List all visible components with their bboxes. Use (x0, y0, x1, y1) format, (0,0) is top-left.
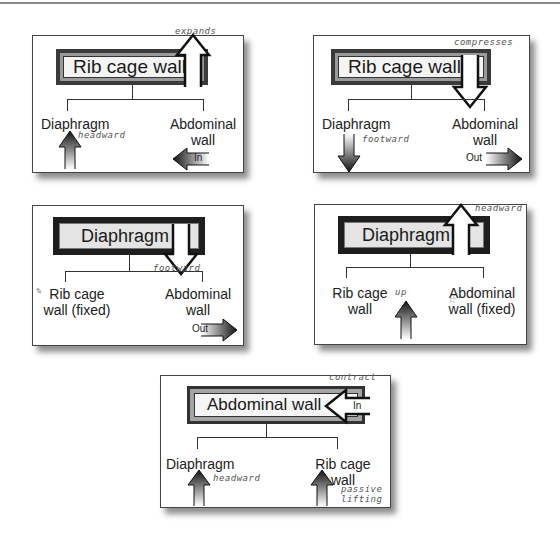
handwritten-note-headward: headward (213, 473, 260, 483)
label-rib-cage-wall: Rib cage wall (323, 285, 397, 317)
tree-bar (67, 99, 204, 100)
tree-branch-right (337, 437, 338, 449)
arrow-label-out: Out (192, 323, 208, 334)
handwritten-note-passive-lifting: passive lifting (341, 484, 382, 504)
panel-diaphragm-footward: Diaphragm footward ✎ Rib cage wall (fixe… (32, 205, 244, 346)
tree-branch-right (484, 99, 485, 111)
tree-stem (266, 424, 267, 437)
tree-branch-right (202, 271, 203, 282)
hollow-up-arrow-icon (175, 33, 211, 88)
header-label: Diaphragm (81, 226, 169, 247)
panel-rib-cage-compresses: Rib cage wall compresses Diaphragm Abdom… (313, 35, 530, 173)
panel-abdominal-wall-contract: Abdominal wall In contract Diaphragm hea… (160, 375, 391, 508)
gradient-down-arrow-icon (338, 134, 360, 172)
label-abdominal-wall: Abdominal wall (167, 116, 239, 148)
handwritten-note-headward: headward (78, 130, 125, 140)
label-abdominal-wall-fixed: Abdominal wall (fixed) (437, 285, 527, 317)
handwritten-note-up: up (395, 287, 407, 297)
tree-branch-left (346, 267, 347, 278)
header-label: Diaphragm (362, 225, 450, 246)
tree-branch-right (203, 99, 204, 111)
tree-bar (346, 267, 484, 268)
label-rib-cage-wall-fixed: Rib cage wall (fixed) (35, 286, 119, 318)
arrow-label-out: Out (466, 152, 482, 163)
handwritten-note-expands: expands (175, 26, 216, 36)
header-label: Rib cage wall (73, 56, 186, 78)
hollow-down-arrow-icon (452, 55, 488, 109)
tree-stem (132, 85, 133, 99)
label-diaphragm: Diaphragm (322, 116, 390, 132)
tree-stem (411, 85, 412, 99)
panel-rib-cage-expands: Rib cage wall expands Diaphragm Abdomina… (32, 35, 244, 173)
tree-bar (197, 437, 338, 438)
tree-bar (348, 99, 485, 100)
gradient-right-arrow-icon (486, 148, 522, 170)
handwritten-note-headward: headward (475, 203, 522, 213)
header-label: Rib cage wall (348, 56, 461, 78)
hollow-left-arrow-icon (324, 388, 370, 424)
tree-branch-right (483, 267, 484, 278)
tree-branch-left (197, 437, 198, 449)
handwritten-note-footward: footward (362, 134, 409, 144)
tree-branch-left (65, 271, 66, 282)
gradient-up-arrow-icon (188, 470, 210, 506)
arrow-label-in: In (353, 400, 361, 411)
tree-branch-left (67, 99, 68, 111)
label-abdominal-wall: Abdominal wall (446, 116, 524, 148)
panel-diaphragm-headward: Diaphragm headward Rib cage wall up ☆ Ab… (314, 204, 527, 345)
handwritten-note-contract: contract (329, 372, 376, 382)
top-rule (0, 2, 560, 4)
tree-stem (129, 255, 130, 271)
label-abdominal-wall: Abdominal wall (159, 286, 237, 318)
gradient-up-arrow-icon (395, 301, 417, 339)
gradient-up-arrow-icon (311, 470, 333, 506)
handwritten-note-compresses: compresses (454, 37, 513, 47)
tree-bar (65, 271, 203, 272)
tree-stem (410, 254, 411, 267)
hollow-up-arrow-icon (443, 204, 479, 256)
header-label: Abdominal wall (207, 395, 321, 415)
gradient-left-arrow-icon (173, 148, 209, 170)
tree-branch-left (348, 99, 349, 111)
arrow-label-in: In (194, 152, 202, 163)
